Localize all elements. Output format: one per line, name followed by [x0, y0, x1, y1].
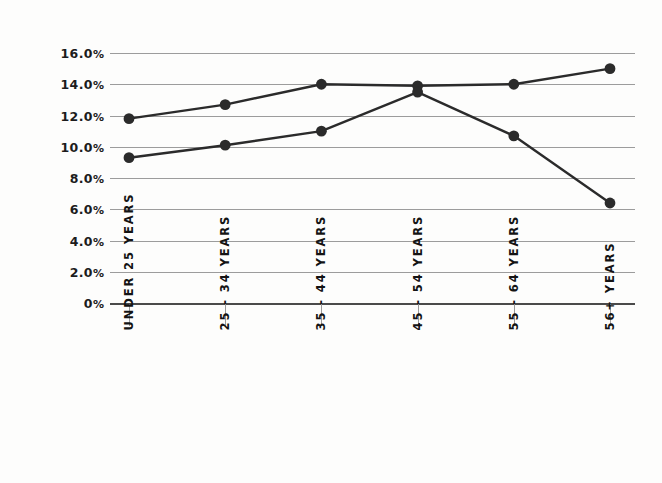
x-tick-label-text: 45 - 54 YEARS	[412, 214, 424, 330]
y-axis: 16.0%14.0%12.0%10.0%8.0%6.0%4.0%2.0%0%	[0, 0, 104, 483]
y-tick-label: 10.0%	[0, 139, 104, 154]
y-tick-label: 2.0%	[0, 264, 104, 279]
y-tick-label: 8.0%	[0, 171, 104, 186]
y-tick-label: 6.0%	[0, 202, 104, 217]
x-tick-label-text: UNDER 25 YEARS	[124, 192, 136, 330]
gridline	[110, 147, 635, 148]
gridline	[110, 272, 635, 273]
y-tick-label: 0%	[0, 296, 104, 311]
y-tick-label: 16.0%	[0, 46, 104, 61]
gridline	[110, 209, 635, 210]
gridline	[110, 53, 635, 54]
plot-area	[110, 53, 635, 303]
gridline	[110, 116, 635, 117]
line-chart: 16.0%14.0%12.0%10.0%8.0%6.0%4.0%2.0%0% U…	[0, 0, 662, 483]
x-tick-label-text: 55 - 64 YEARS	[508, 214, 520, 330]
gridline	[110, 241, 635, 242]
gridline	[110, 178, 635, 179]
x-tick-label-text: 35 - 44 YEARS	[316, 214, 328, 330]
gridline	[110, 84, 635, 85]
y-tick-label: 12.0%	[0, 108, 104, 123]
x-tick-label-text: 56+ YEARS	[605, 241, 617, 330]
y-tick-label: 14.0%	[0, 77, 104, 92]
y-tick-label: 4.0%	[0, 233, 104, 248]
axis-baseline	[110, 303, 635, 305]
x-tick-label-text: 25 - 34 YEARS	[220, 214, 232, 330]
